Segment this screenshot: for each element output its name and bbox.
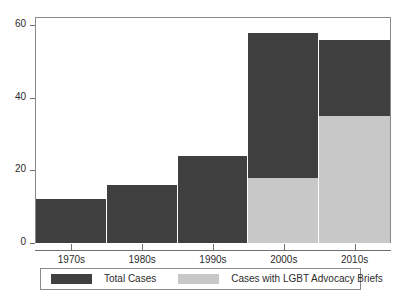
x-tick-mark-1980s	[142, 244, 143, 250]
bar-total-cases-1980s	[107, 185, 178, 243]
bar-chart: 60 40 20 0	[0, 0, 401, 299]
y-tick-label-60: 60	[15, 18, 26, 29]
x-tick-label-1990s: 1990s	[178, 254, 249, 266]
x-tick-mark-2010s	[355, 244, 356, 250]
x-axis: 1970s 1980s 1990s 2000s 2010s	[36, 244, 390, 268]
bar-group-1990s	[178, 18, 249, 243]
y-tick-label-0: 0	[20, 236, 26, 247]
bar-group-2010s	[319, 18, 390, 243]
legend-swatch-lgbt-briefs	[178, 274, 219, 284]
x-tick-label-2000s: 2000s	[248, 254, 319, 266]
y-tick-label-20: 20	[15, 163, 26, 174]
x-tick-label-2010s: 2010s	[319, 254, 390, 266]
plot-area	[36, 18, 390, 243]
legend: Total Cases Cases with LGBT Advocacy Bri…	[40, 268, 361, 290]
x-tick-label-1970s: 1970s	[36, 254, 107, 266]
bar-lgbt-briefs-2010s	[319, 116, 390, 243]
y-tick-label-40: 40	[15, 91, 26, 102]
x-tick-2000s: 2000s	[248, 244, 319, 268]
x-tick-1990s: 1990s	[178, 244, 249, 268]
x-tick-mark-2000s	[284, 244, 285, 250]
bar-group-1980s	[107, 18, 178, 243]
legend-swatch-total-cases	[51, 274, 92, 284]
bar-group-2000s	[248, 18, 319, 243]
legend-item-lgbt-briefs: Cases with LGBT Advocacy Briefs	[178, 269, 383, 289]
legend-label-lgbt-briefs: Cases with LGBT Advocacy Briefs	[231, 273, 383, 285]
bar-group-1970s	[36, 18, 107, 243]
legend-label-total-cases: Total Cases	[104, 273, 156, 285]
y-tick-mark-0	[30, 243, 35, 244]
bar-lgbt-briefs-2000s	[248, 178, 319, 243]
x-tick-label-1980s: 1980s	[107, 254, 178, 266]
x-tick-2010s: 2010s	[319, 244, 390, 268]
x-tick-1970s: 1970s	[36, 244, 107, 268]
x-tick-1980s: 1980s	[107, 244, 178, 268]
legend-item-total-cases: Total Cases	[51, 269, 156, 289]
bar-total-cases-1970s	[36, 199, 107, 243]
x-tick-mark-1970s	[71, 244, 72, 250]
bar-total-cases-1990s	[178, 156, 249, 243]
x-tick-mark-1990s	[213, 244, 214, 250]
